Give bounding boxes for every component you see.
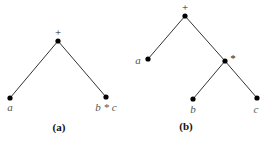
leaf-label-a: a (135, 54, 141, 66)
leaf-node-c (254, 95, 259, 100)
tree-b: + a * b c (b) (135, 1, 259, 133)
root-label: + (182, 1, 188, 13)
leaf-node-a (145, 56, 150, 61)
leaf-node-b (190, 96, 195, 101)
leaf-node-bc (103, 94, 108, 99)
leaf-node-a (7, 95, 12, 100)
tree-a: + a b * c (a) (7, 26, 117, 134)
edge-root-to-a (10, 41, 58, 98)
root-label: + (55, 26, 61, 38)
caption-a: (a) (53, 121, 66, 134)
caption-b: (b) (179, 120, 193, 133)
edge-root-to-mul (185, 16, 225, 61)
leaf-label-bc: b * c (95, 101, 117, 113)
root-node (182, 13, 187, 18)
leaf-label-c: c (254, 103, 259, 115)
edge-root-to-a (148, 16, 185, 59)
edge-mul-to-c (225, 61, 257, 98)
leaf-label-b: b (190, 103, 196, 115)
edge-mul-to-b (193, 61, 225, 99)
expression-trees-diagram: + a b * c (a) + a * b c (b) (0, 0, 262, 141)
leaf-label-a: a (7, 101, 13, 113)
edge-root-to-bc (58, 41, 106, 97)
mul-label: * (230, 52, 236, 64)
root-node (55, 38, 60, 43)
mul-node (222, 58, 227, 63)
